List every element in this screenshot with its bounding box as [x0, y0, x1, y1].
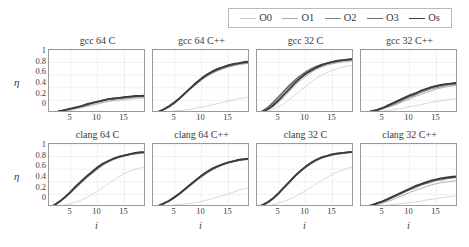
panel-row-top: η 10.80.60.40.20 gcc 64 C51015 gcc 64 C+…	[0, 36, 469, 128]
x-tick-label: 5	[275, 207, 279, 216]
x-axis-ticks: 51015	[360, 113, 457, 125]
x-tick-label: 5	[67, 113, 71, 122]
legend-label: O2	[344, 13, 357, 24]
x-tick-label: 10	[196, 113, 205, 122]
x-tick-label: 15	[327, 207, 336, 216]
y-tick-label: 1	[42, 46, 46, 55]
plot-area	[152, 49, 249, 112]
x-tick-label: 5	[67, 207, 71, 216]
x-axis-label: i	[256, 220, 353, 231]
x-tick-label: 5	[379, 207, 383, 216]
legend-label: Os	[428, 13, 440, 24]
x-tick-label: 10	[404, 113, 413, 122]
legend-swatch-o1	[282, 18, 298, 19]
x-axis-label: i	[152, 220, 249, 231]
panel-title: clang 32 C++	[360, 129, 459, 141]
panel-row-bottom: η 10.80.60.40.20 clang 64 C51015i clang …	[0, 130, 469, 222]
legend-label: O1	[301, 13, 314, 24]
x-tick-label: 15	[431, 207, 440, 216]
y-axis-ticks-bottom: 10.80.60.40.20	[26, 144, 46, 206]
x-axis-ticks: 51015	[256, 113, 353, 125]
x-tick-label: 15	[223, 113, 232, 122]
x-tick-label: 10	[300, 113, 309, 122]
x-tick-label: 10	[92, 113, 101, 122]
y-tick-label: 0.6	[35, 161, 46, 170]
plot-area	[360, 49, 457, 112]
plot-area	[48, 143, 145, 206]
x-axis-ticks: 51015	[360, 207, 457, 219]
panel-clang-32-cpp: clang 32 C++51015i	[360, 130, 459, 222]
panel-title: gcc 64 C++	[152, 35, 251, 47]
y-tick-label: 0.6	[35, 67, 46, 76]
legend-entry-o3: O3	[367, 13, 399, 24]
panel-title: gcc 64 C	[48, 35, 147, 47]
panel-title: clang 64 C++	[152, 129, 251, 141]
x-tick-label: 15	[119, 207, 128, 216]
panel-clang-64-cpp: clang 64 C++51015i	[152, 130, 251, 222]
x-axis-ticks: 51015	[152, 113, 249, 125]
legend-swatch-os	[409, 18, 425, 19]
y-tick-label: 0.8	[35, 56, 46, 65]
legend-swatch-o2	[325, 18, 341, 19]
panel-title: clang 32 C	[256, 129, 355, 141]
y-tick-label: 0.4	[35, 78, 46, 87]
y-tick-label: 0	[42, 99, 46, 108]
panel-gcc-32-cpp: gcc 32 C++51015	[360, 36, 459, 128]
x-axis-ticks: 51015	[152, 207, 249, 219]
y-axis-ticks-top: 10.80.60.40.20	[26, 50, 46, 112]
legend-swatch-o3	[367, 18, 383, 19]
panel-gcc-64-cpp: gcc 64 C++51015	[152, 36, 251, 128]
x-axis-ticks: 51015	[48, 207, 145, 219]
x-tick-label: 10	[92, 207, 101, 216]
x-axis-label: i	[360, 220, 457, 231]
legend-entry-o2: O2	[325, 13, 357, 24]
panel-title: gcc 32 C++	[360, 35, 459, 47]
y-axis-label: η	[14, 170, 19, 182]
x-tick-label: 5	[379, 113, 383, 122]
y-tick-label: 0	[42, 193, 46, 202]
x-tick-label: 5	[171, 207, 175, 216]
x-axis-label: i	[48, 220, 145, 231]
x-tick-label: 10	[196, 207, 205, 216]
y-tick-label: 0.8	[35, 150, 46, 159]
legend-label: O0	[259, 13, 272, 24]
legend-entry-os: Os	[409, 13, 440, 24]
x-tick-label: 15	[431, 113, 440, 122]
legend-entry-o1: O1	[282, 13, 314, 24]
panel-clang-64-c: clang 64 C51015i	[48, 130, 147, 222]
panel-gcc-64-c: gcc 64 C51015	[48, 36, 147, 128]
plot-area	[256, 49, 353, 112]
panel-gcc-32-c: gcc 32 C51015	[256, 36, 355, 128]
plot-area	[360, 143, 457, 206]
x-tick-label: 5	[171, 113, 175, 122]
y-tick-label: 1	[42, 140, 46, 149]
x-tick-label: 15	[119, 113, 128, 122]
x-tick-label: 10	[404, 207, 413, 216]
y-tick-label: 0.2	[35, 183, 46, 192]
legend-entry-o0: O0	[240, 13, 272, 24]
x-axis-ticks: 51015	[48, 113, 145, 125]
plot-area	[256, 143, 353, 206]
plot-area	[48, 49, 145, 112]
panel-title: clang 64 C	[48, 129, 147, 141]
panel-title: gcc 32 C	[256, 35, 355, 47]
y-tick-label: 0.4	[35, 172, 46, 181]
y-tick-label: 0.2	[35, 89, 46, 98]
legend-label: O3	[386, 13, 399, 24]
figure-canvas: O0O1O2O3Os η 10.80.60.40.20 gcc 64 C5101…	[0, 0, 469, 247]
x-tick-label: 5	[275, 113, 279, 122]
x-tick-label: 10	[300, 207, 309, 216]
legend-swatch-o0	[240, 18, 256, 19]
legend: O0O1O2O3Os	[228, 8, 452, 28]
x-tick-label: 15	[223, 207, 232, 216]
panel-clang-32-c: clang 32 C51015i	[256, 130, 355, 222]
y-axis-label: η	[14, 76, 19, 88]
x-tick-label: 15	[327, 113, 336, 122]
x-axis-ticks: 51015	[256, 207, 353, 219]
plot-area	[152, 143, 249, 206]
